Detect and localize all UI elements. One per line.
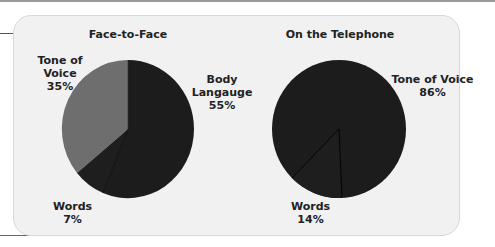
label-tone-of-voice-right: Tone of Voice 86% — [390, 73, 475, 99]
label-words-left: Words 7% — [50, 200, 95, 226]
chart-title-on-the-telephone: On the Telephone — [285, 28, 395, 41]
label-tone-of-voice-left: Tone of Voice 35% — [20, 54, 100, 93]
chart-title-face-to-face: Face-to-Face — [80, 28, 176, 41]
label-words-right: Words 14% — [288, 200, 333, 226]
pie-on-the-telephone — [272, 60, 406, 198]
label-body-language: Body Langauge 55% — [177, 73, 267, 112]
